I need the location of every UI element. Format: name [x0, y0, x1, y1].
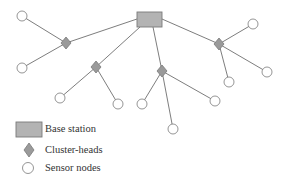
cluster-heads: [61, 37, 224, 77]
edge-base-ch2: [96, 27, 140, 67]
legend-label-base-station: Base station: [45, 123, 96, 135]
sensor-node-circle-icon: [137, 99, 147, 109]
legend-label-sensor-nodes: Sensor nodes: [45, 162, 101, 174]
edge-ch3-s6: [162, 71, 215, 101]
sensor-node-circle-icon: [17, 63, 27, 73]
edge-ch1-s2: [22, 43, 66, 68]
sensor-node-circle-icon: [113, 99, 123, 109]
edge-ch4-s8: [219, 24, 253, 44]
sensor-nodes: [17, 11, 272, 134]
edge-ch2-s3: [60, 67, 96, 98]
legend-base-station-rect-icon: [16, 122, 42, 137]
edge-base-ch3: [153, 27, 162, 71]
edge-ch2-s4: [96, 67, 118, 104]
cluster-head-diamond-icon: [61, 37, 71, 49]
network-diagram: [0, 0, 285, 180]
sensor-node-circle-icon: [210, 96, 220, 106]
cluster-head-diamond-icon: [214, 38, 224, 50]
edge-ch3-s7: [162, 71, 173, 129]
edge-ch4-s9: [219, 44, 267, 72]
edge-ch3-s5: [142, 71, 162, 104]
legend-sensor-node-circle-icon: [23, 163, 34, 174]
base-station: [137, 12, 162, 27]
sensor-node-circle-icon: [248, 19, 258, 29]
legend-label-cluster-heads: Cluster-heads: [45, 144, 103, 156]
sensor-node-circle-icon: [168, 124, 178, 134]
edge-ch1-s1: [22, 16, 66, 43]
legend-symbols: [16, 122, 42, 174]
sensor-node-circle-icon: [262, 67, 272, 77]
legend-cluster-head-diamond-icon: [24, 143, 34, 157]
cluster-head-diamond-icon: [157, 65, 167, 77]
sensor-node-circle-icon: [17, 11, 27, 21]
edge-base-ch4: [162, 19, 219, 44]
edge-ch4-s10: [219, 44, 229, 82]
edges: [22, 16, 267, 129]
sensor-node-circle-icon: [224, 77, 234, 87]
cluster-head-diamond-icon: [91, 61, 101, 73]
sensor-node-circle-icon: [55, 93, 65, 103]
